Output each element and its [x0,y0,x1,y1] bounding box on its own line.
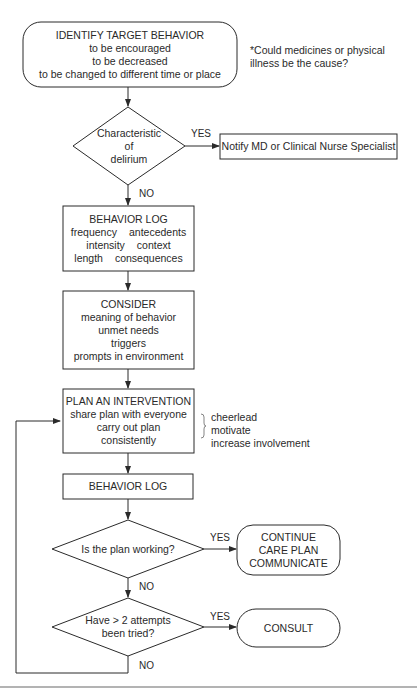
footnote: *Could medicines or physical illness be … [250,44,385,70]
working-yes-label: YES [210,532,230,544]
attempts-line-2: been tried? [102,627,155,640]
working-no-label: NO [139,581,154,593]
attempts-yes-label: YES [210,611,230,623]
behavior-log-1-title: BEHAVIOR LOG [89,213,168,226]
plan-note-line-2: motivate [211,424,310,437]
log-item-length: length [74,252,103,265]
working-text: Is the plan working? [81,543,174,556]
start-line-1: to be encouraged [89,42,171,55]
continue-line-2: CARE PLAN [259,544,319,557]
plan-note-line-3: increase involvement [211,437,310,450]
footnote-line-2: illness be the cause? [250,57,385,70]
log-item-antecedents: antecedents [129,226,186,239]
consider-line-3: triggers [111,337,146,350]
attempts-line-1: Have > 2 attempts [85,614,171,627]
consult-text: CONSULT [264,622,313,635]
delirium-no-label: NO [139,188,154,200]
behavior-log-1-box: BEHAVIOR LOG frequency antecedents inten… [63,206,194,271]
behavior-log-1-row-2: intensity context [86,239,170,252]
plan-note-line-1: cheerlead [211,411,310,424]
log-item-frequency: frequency [71,226,117,239]
start-terminator: IDENTIFY TARGET BEHAVIOR to be encourage… [23,22,237,87]
continue-terminator: CONTINUE CARE PLAN COMMUNICATE [237,525,340,575]
log-item-intensity: intensity [86,239,125,252]
plan-note: cheerlead motivate increase involvement [211,411,310,450]
delirium-line-2: of [125,140,134,153]
log-item-context: context [137,239,171,252]
plan-box: PLAN AN INTERVENTION share plan with eve… [63,389,194,453]
consider-box: CONSIDER meaning of behavior unmet needs… [63,291,194,369]
consult-terminator: CONSULT [237,609,340,647]
footnote-line-1: *Could medicines or physical [250,44,385,57]
behavior-log-1-row-3: length consequences [74,252,182,265]
attempts-decision: Have > 2 attempts been tried? [52,598,204,656]
delirium-decision: Characteristic of delirium [73,107,185,185]
plan-line-1: share plan with everyone [70,408,187,421]
continue-line-3: COMMUNICATE [249,557,328,570]
notify-text: Notify MD or Clinical Nurse Specialist [222,140,396,153]
consider-line-1: meaning of behavior [81,311,176,324]
working-decision: Is the plan working? [52,520,204,578]
plan-line-2: carry out plan [97,421,161,434]
behavior-log-2-title: BEHAVIOR LOG [89,480,168,493]
behavior-log-1-row-1: frequency antecedents [71,226,186,239]
start-title: IDENTIFY TARGET BEHAVIOR [56,29,204,42]
plan-line-3: consistently [101,434,156,447]
start-line-2: to be decreased [92,55,167,68]
consider-line-2: unmet needs [98,324,159,337]
start-line-3: to be changed to different time or place [39,68,221,81]
log-item-consequences: consequences [115,252,183,265]
consider-title: CONSIDER [101,298,156,311]
notify-box: Notify MD or Clinical Nurse Specialist [220,134,397,159]
delirium-line-3: delirium [111,153,148,166]
attempts-no-label: NO [139,660,154,672]
consider-line-4: prompts in environment [74,350,184,363]
continue-line-1: CONTINUE [261,531,316,544]
delirium-yes-label: YES [191,128,211,140]
plan-title: PLAN AN INTERVENTION [66,395,191,408]
delirium-line-1: Characteristic [97,127,161,140]
behavior-log-2-box: BEHAVIOR LOG [63,474,193,499]
